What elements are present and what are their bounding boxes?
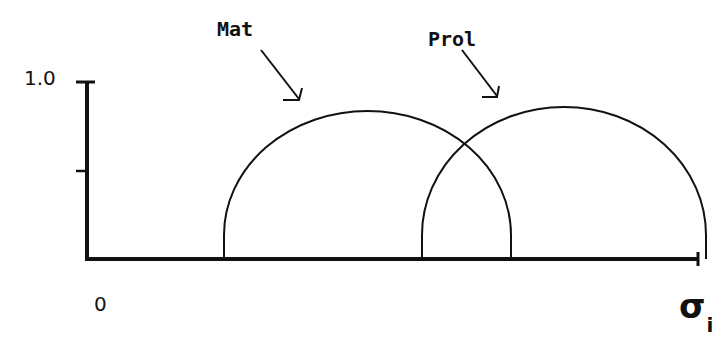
chart-canvas [0,0,726,341]
x-axis-symbol: σ [679,286,705,326]
prol-curve [422,107,706,259]
prol-label: Prol [428,27,476,51]
y-tick-label-top: 1.0 [24,66,56,90]
mat-label: Mat [217,17,253,41]
x-axis-label: σi [679,286,712,326]
prol-arrow-icon [462,50,499,97]
origin-label: 0 [94,292,107,316]
mat-curve [224,111,511,259]
x-axis-subscript: i [706,313,713,337]
mat-arrow-icon [261,50,302,100]
